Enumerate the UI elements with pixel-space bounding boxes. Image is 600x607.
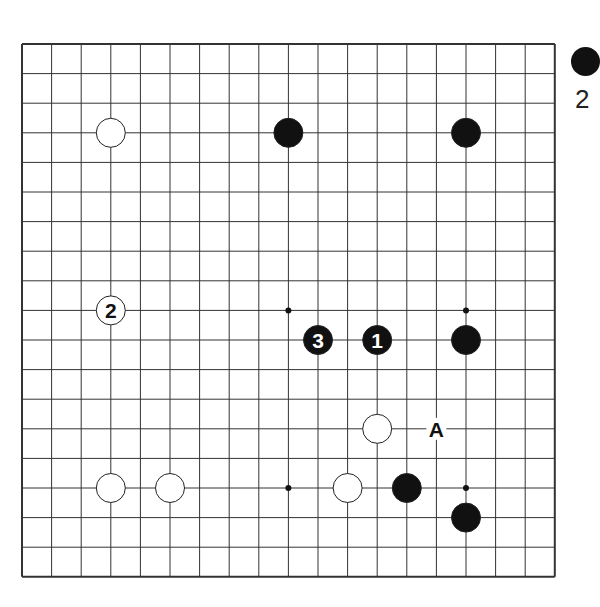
black-stone: [274, 118, 303, 147]
stone-move-number: 1: [371, 329, 383, 352]
white-stone: [96, 118, 125, 147]
star-point: [463, 307, 469, 313]
white-stone: [333, 474, 362, 503]
white-stone: [156, 474, 185, 503]
black-stone: [392, 474, 421, 503]
black-stone: [452, 503, 481, 532]
partial-caption-text: 2: [575, 86, 589, 112]
marker-label: A: [429, 418, 444, 441]
stone-move-number: 3: [312, 329, 324, 352]
white-stone: [96, 474, 125, 503]
star-point: [463, 485, 469, 491]
black-stone: [452, 118, 481, 147]
partial-caption-stone: [571, 47, 600, 76]
white-stone: [363, 414, 392, 443]
star-point: [285, 307, 291, 313]
stone-move-number: 2: [105, 299, 117, 322]
star-point: [285, 485, 291, 491]
black-stone: [452, 326, 481, 355]
